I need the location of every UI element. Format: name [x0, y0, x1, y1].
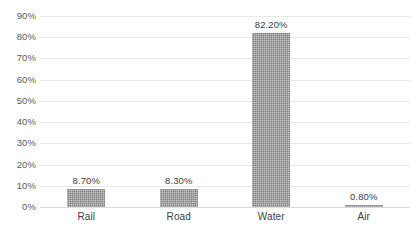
bar-group: 0.80%	[318, 16, 411, 207]
x-axis-category-label: Water	[225, 210, 318, 223]
bar-value-label: 0.80%	[350, 191, 377, 202]
axis-baseline	[40, 207, 410, 208]
y-axis-tick-label: 90%	[0, 11, 36, 21]
y-axis-tick-label: 40%	[0, 117, 36, 127]
y-axis: 0%10%20%30%40%50%60%70%80%90%	[0, 16, 36, 207]
bar-air[interactable]	[345, 205, 383, 207]
y-axis-tick-label: 70%	[0, 53, 36, 63]
x-axis-category-label: Air	[318, 210, 411, 223]
bar-value-label: 8.30%	[165, 175, 192, 186]
x-axis-category-label: Rail	[40, 210, 133, 223]
bar-group: 8.70%	[40, 16, 133, 207]
y-axis-tick-label: 50%	[0, 96, 36, 106]
bar-water[interactable]	[252, 33, 290, 207]
bars-layer: 8.70%8.30%82.20%0.80%	[40, 16, 410, 207]
bar-value-label: 82.20%	[255, 19, 288, 30]
x-axis: RailRoadWaterAir	[40, 210, 410, 230]
y-axis-tick-label: 0%	[0, 202, 36, 212]
bar-group: 82.20%	[225, 16, 318, 207]
bar-chart: 0%10%20%30%40%50%60%70%80%90% 8.70%8.30%…	[0, 0, 416, 234]
y-axis-tick-label: 10%	[0, 181, 36, 191]
bar-value-label: 8.70%	[73, 175, 100, 186]
y-axis-tick-label: 60%	[0, 75, 36, 85]
bar-group: 8.30%	[133, 16, 226, 207]
bar-rail[interactable]	[67, 189, 105, 207]
y-axis-tick-label: 80%	[0, 32, 36, 42]
bar-road[interactable]	[160, 189, 198, 207]
y-axis-tick-label: 30%	[0, 138, 36, 148]
y-axis-tick-label: 20%	[0, 160, 36, 170]
x-axis-category-label: Road	[133, 210, 226, 223]
